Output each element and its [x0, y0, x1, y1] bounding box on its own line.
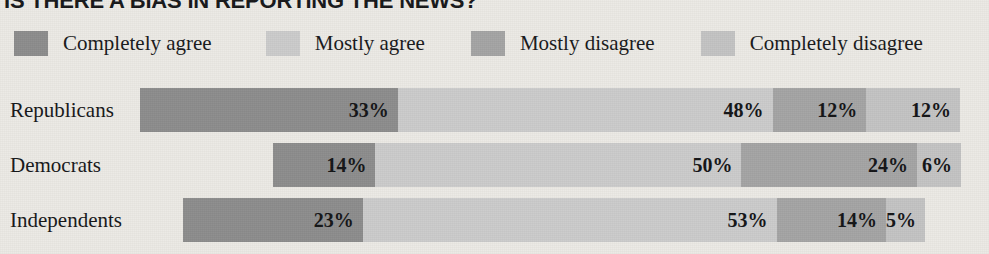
row-label-democrats: Democrats [10, 143, 101, 187]
bar-segment-value: 12% [817, 88, 857, 132]
legend-item-completely-disagree: Completely disagree [701, 31, 923, 56]
stacked-bar-democrats: 14%50%24%6% [273, 143, 961, 187]
bar-segment: 48% [398, 88, 773, 132]
chart-title: IS THERE A BIAS IN REPORTING THE NEWS? [4, 0, 478, 14]
chart-row: Democrats 14%50%24%6% [0, 143, 989, 187]
row-label-republicans: Republicans [10, 88, 114, 132]
bar-segment: 6% [917, 143, 961, 187]
legend-item-mostly-agree: Mostly agree [266, 31, 425, 56]
bar-segment-value: 24% [868, 143, 908, 187]
legend-item-mostly-disagree: Mostly disagree [471, 31, 655, 56]
bar-segment: 23% [183, 198, 363, 242]
bar-segment-value: 12% [911, 88, 951, 132]
bar-segment: 12% [773, 88, 867, 132]
bar-segment: 14% [777, 198, 886, 242]
legend-swatch-icon [266, 31, 300, 56]
stacked-bar-independents: 23%53%14%5% [183, 198, 925, 242]
chart-row: Independents 23%53%14%5% [0, 198, 989, 242]
stacked-bar-republicans: 33%48%12%12% [140, 88, 960, 132]
stacked-bar-chart: IS THERE A BIAS IN REPORTING THE NEWS? C… [0, 0, 989, 254]
legend-item-label: Mostly disagree [520, 31, 655, 56]
bar-segment-value: 50% [692, 143, 732, 187]
bar-segment: 12% [866, 88, 960, 132]
bar-segment-value: 6% [922, 143, 952, 187]
bar-segment: 5% [886, 198, 925, 242]
bar-segment: 53% [363, 198, 777, 242]
bar-segment: 50% [375, 143, 741, 187]
bar-segment: 24% [741, 143, 917, 187]
legend-item-completely-agree: Completely agree [14, 31, 212, 56]
legend-item-label: Completely agree [63, 31, 212, 56]
bar-segment-value: 14% [326, 143, 366, 187]
bar-segment: 14% [273, 143, 375, 187]
bar-segment-value: 53% [728, 198, 768, 242]
bar-segment-value: 23% [314, 198, 354, 242]
chart-legend: Completely agree Mostly agree Mostly dis… [0, 27, 989, 59]
bar-segment-value: 5% [886, 198, 916, 242]
legend-swatch-icon [14, 31, 48, 56]
legend-swatch-icon [701, 31, 735, 56]
row-label-independents: Independents [10, 198, 122, 242]
bar-segment-value: 14% [837, 198, 877, 242]
bar-segment: 33% [140, 88, 398, 132]
bar-segment-value: 48% [724, 88, 764, 132]
legend-swatch-icon [471, 31, 505, 56]
chart-row: Republicans 33%48%12%12% [0, 88, 989, 132]
legend-item-label: Completely disagree [750, 31, 923, 56]
bar-segment-value: 33% [349, 88, 389, 132]
legend-item-label: Mostly agree [315, 31, 425, 56]
